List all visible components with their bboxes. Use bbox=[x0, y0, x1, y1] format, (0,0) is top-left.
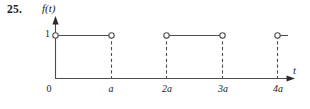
x-tick-label-3a: 3a bbox=[218, 84, 228, 94]
drop-lines bbox=[112, 36, 278, 79]
square-wave-figure: 25. f(t) t 1 0 a 2a 3a 4a bbox=[0, 0, 310, 109]
x-axis bbox=[55, 75, 295, 81]
y-axis-arrowhead bbox=[52, 16, 58, 25]
y-axis-label: f(t) bbox=[42, 3, 55, 14]
open-circle-3a bbox=[220, 33, 225, 38]
open-circle-2a bbox=[164, 33, 169, 38]
x-tick-label-0: 0 bbox=[47, 84, 52, 94]
problem-number: 25. bbox=[7, 4, 22, 16]
open-circle-0 bbox=[53, 33, 58, 38]
y-axis bbox=[52, 16, 58, 79]
x-tick-label-a: a bbox=[109, 84, 114, 94]
x-tick-label-2a: 2a bbox=[162, 84, 172, 94]
x-axis-label: t bbox=[293, 66, 296, 77]
open-circle-a bbox=[109, 33, 114, 38]
open-circle-4a bbox=[275, 33, 280, 38]
x-tick-label-4a: 4a bbox=[273, 84, 283, 94]
y-tick-label-1: 1 bbox=[45, 29, 50, 39]
